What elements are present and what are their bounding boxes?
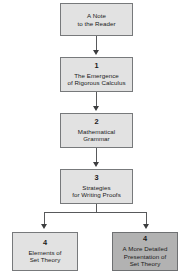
node-chapter-4-detailed-presentation[interactable]: 4 A More Detailed Presentation of Set Th… (112, 232, 178, 271)
node-title: The Emergence of Rigorous Calculus (67, 72, 125, 87)
connector-branch-bar (44, 212, 147, 213)
node-chapter-4-elements-of-set-theory[interactable]: 4 Elements of Set Theory (12, 232, 78, 271)
node-number: 4 (143, 235, 147, 244)
arrowhead-chapter-2 (93, 106, 99, 111)
node-title: Strategies for Writing Proofs (72, 184, 121, 199)
node-number: 3 (94, 174, 98, 183)
arrowhead-chapter-4a (41, 224, 47, 229)
node-number: 2 (94, 118, 98, 127)
node-number: 1 (94, 62, 98, 71)
node-title: A More Detailed Presentation of Set Theo… (123, 245, 168, 268)
arrowhead-chapter-3 (93, 162, 99, 167)
node-title: A Note to the Reader (77, 12, 115, 27)
node-title: Elements of Set Theory (28, 249, 61, 264)
node-title: Mathematical Grammar (78, 128, 115, 143)
arrowhead-chapter-4b (143, 224, 149, 229)
flowchart-canvas: A Note to the Reader 1 The Emergence of … (0, 0, 190, 277)
arrowhead-chapter-1 (93, 50, 99, 55)
node-chapter-3[interactable]: 3 Strategies for Writing Proofs (60, 169, 133, 204)
node-note-to-the-reader[interactable]: A Note to the Reader (60, 3, 133, 36)
node-number: 4 (43, 239, 47, 248)
node-chapter-2[interactable]: 2 Mathematical Grammar (60, 113, 133, 148)
node-chapter-1[interactable]: 1 The Emergence of Rigorous Calculus (60, 57, 133, 92)
